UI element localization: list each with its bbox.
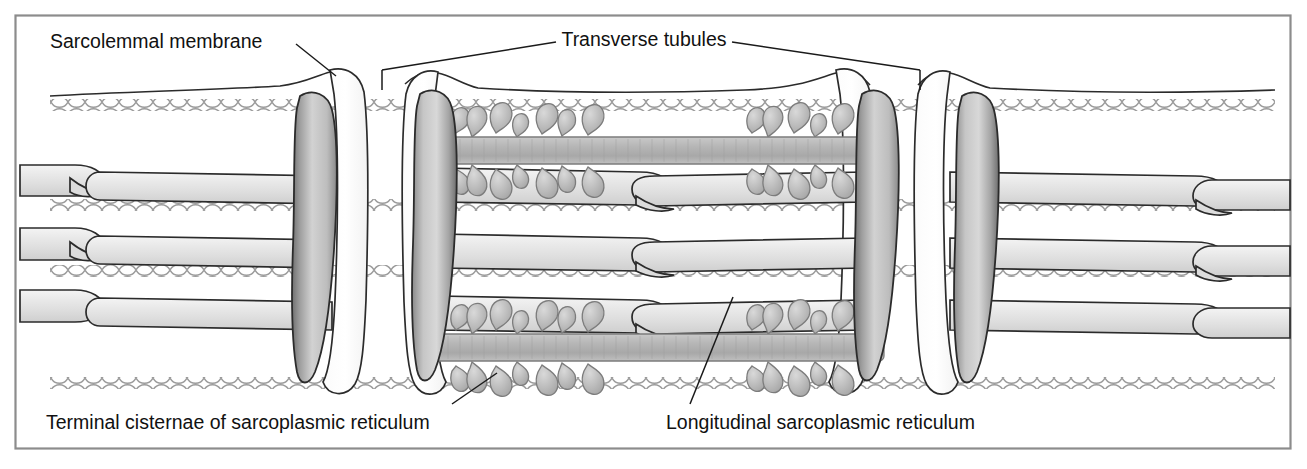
muscle-sr-diagram: Sarcolemmal membrane Transverse tubules … bbox=[0, 0, 1307, 469]
label-transverse-tubules: Transverse tubules bbox=[561, 28, 726, 50]
label-sarcolemmal-membrane: Sarcolemmal membrane bbox=[50, 30, 262, 52]
label-longitudinal-sr: Longitudinal sarcoplasmic reticulum bbox=[666, 411, 975, 433]
longitudinal-sr-tubules bbox=[20, 165, 1290, 339]
myosin-rod-lower bbox=[424, 334, 884, 361]
myosin-rod-upper bbox=[424, 137, 884, 164]
diagram-figure: Sarcolemmal membrane Transverse tubules … bbox=[0, 0, 1307, 469]
label-terminal-cisternae: Terminal cisternae of sarcoplasmic retic… bbox=[46, 411, 430, 433]
